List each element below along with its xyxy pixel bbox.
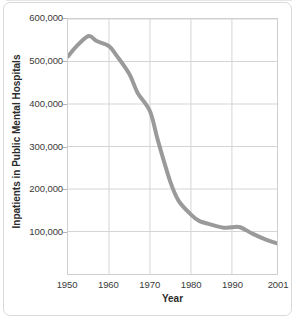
x-tick-label: 1970 — [139, 279, 160, 290]
x-tick-label: 1980 — [181, 279, 202, 290]
x-tick-label: 2001 — [268, 279, 289, 290]
y-axis-title: Inpatients in Public Mental Hospitals — [11, 17, 22, 267]
plot-svg — [68, 19, 277, 274]
data-line-inpatients — [68, 36, 277, 244]
x-tick-label: 1950 — [57, 279, 78, 290]
x-tick-label: 1990 — [222, 279, 243, 290]
plot-area — [67, 18, 278, 275]
figure-top-edge — [6, 0, 292, 6]
x-tick-label: 1960 — [98, 279, 119, 290]
horizontal-gridlines — [68, 19, 277, 232]
y-axis-tick-labels: 100,000200,000300,000400,000500,000600,0… — [0, 18, 63, 275]
x-axis-title: Year — [67, 293, 278, 304]
